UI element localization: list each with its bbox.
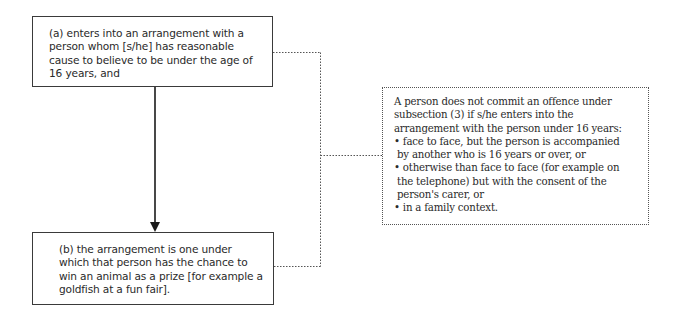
- dotted-bracket: [273, 53, 382, 267]
- exception-intro-line: A person does not commit an offence unde…: [394, 95, 642, 108]
- condition-box-b: (b) the arrangement is one under which t…: [32, 232, 274, 305]
- bullet-line: the telephone) but with the consent of t…: [394, 175, 642, 188]
- exception-intro-line: subsection (3) if s/he enters into the: [394, 108, 642, 121]
- bullet-line: person's carer, or: [394, 188, 642, 201]
- bullet-line: • in a family context.: [394, 201, 642, 214]
- exception-bullet-family: • in a family context.: [394, 201, 642, 214]
- bullet-line: by another who is 16 years or over, or: [394, 148, 642, 161]
- exception-bullet-face-to-face: • face to face, but the person is accomp…: [394, 135, 642, 162]
- exception-box: A person does not commit an offence unde…: [382, 87, 649, 225]
- condition-b-text: (b) the arrangement is one under which t…: [59, 243, 263, 297]
- condition-box-a: (a) enters into an arrangement with a pe…: [32, 16, 273, 87]
- bullet-line: • otherwise than face to face (for examp…: [394, 161, 642, 174]
- exception-bullet-otherwise: • otherwise than face to face (for examp…: [394, 161, 642, 201]
- arrow-head-icon: [150, 222, 160, 232]
- exception-intro-line: arrangement with the person under 16 yea…: [394, 122, 642, 135]
- bullet-line: • face to face, but the person is accomp…: [394, 135, 642, 148]
- condition-a-text: (a) enters into an arrangement with a pe…: [49, 27, 262, 81]
